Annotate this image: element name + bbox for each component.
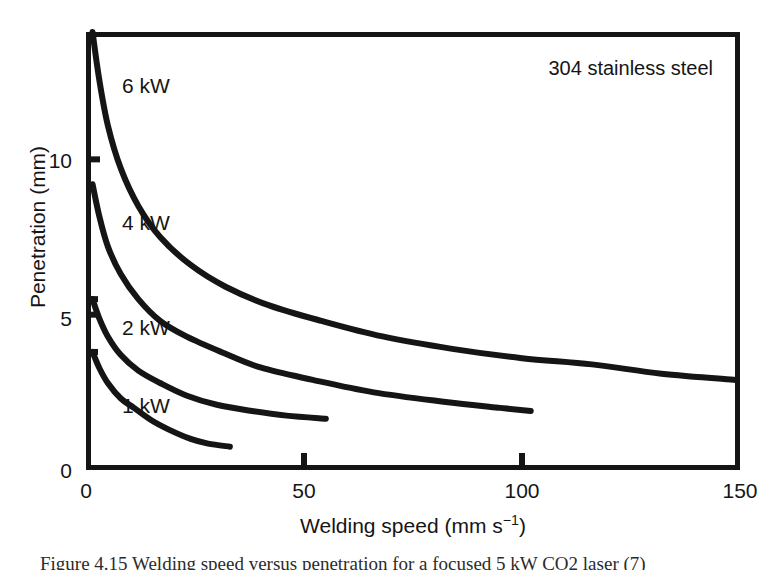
y-tick-label-5: 5 xyxy=(60,308,72,329)
x-axis-title-main: Welding speed (mm s xyxy=(300,514,503,537)
x-tick-label-150: 150 xyxy=(722,480,757,501)
welding-penetration-figure: 304 stainless steel 0 50 100 150 0 5 10 … xyxy=(0,0,775,570)
series-label-6kw: 6 kW xyxy=(122,74,170,98)
series-label-2kw: 2 kW xyxy=(122,316,170,340)
y-tick-label-0: 0 xyxy=(60,460,72,481)
x-tick-label-0: 0 xyxy=(80,480,92,501)
x-tick-label-50: 50 xyxy=(292,480,315,501)
x-axis-title-tail: ) xyxy=(519,514,526,537)
x-tick-label-100: 100 xyxy=(504,480,539,501)
plot-frame: 304 stainless steel xyxy=(86,32,740,470)
series-label-4kw: 4 kW xyxy=(122,211,170,235)
x-axis-title: Welding speed (mm s−1) xyxy=(86,512,740,538)
figure-caption: Figure 4.15 Welding speed versus penetra… xyxy=(40,553,740,570)
x-axis-title-exponent: −1 xyxy=(503,512,519,528)
y-axis-title: Penetration (mm) xyxy=(26,97,50,357)
material-annotation: 304 stainless steel xyxy=(548,57,713,80)
series-label-1kw: 1 kW xyxy=(122,394,170,418)
y-tick-label-10: 10 xyxy=(49,150,72,171)
